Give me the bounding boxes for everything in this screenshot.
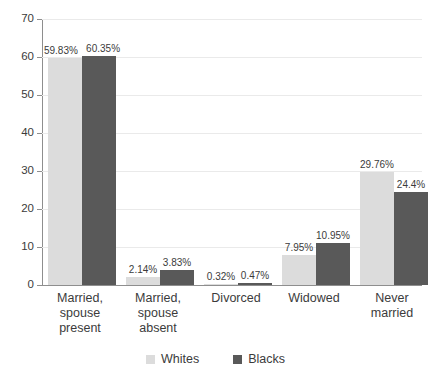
bar-chart: 70 60 50 40 30 20 10 0 59.83 <box>0 0 431 376</box>
bar-value-label: 3.83% <box>163 257 191 268</box>
y-tick-label-60: 60 <box>4 51 34 63</box>
legend-label-whites: Whites <box>161 352 199 366</box>
y-tick-label-10: 10 <box>4 241 34 253</box>
bar-whites-divorced[interactable]: 0.32% <box>204 284 238 285</box>
bar-whites-married-spouse-absent[interactable]: 2.14% <box>126 277 160 285</box>
legend-item-blacks[interactable]: Blacks <box>233 352 285 366</box>
bar-group-never-married: 29.76% 24.4% <box>360 19 430 285</box>
bar-blacks-divorced[interactable]: 0.47% <box>238 283 272 285</box>
y-tick-label-70: 70 <box>4 13 34 25</box>
bar-whites-married-spouse-present[interactable]: 59.83% <box>48 58 82 285</box>
bar-blacks-married-spouse-present[interactable]: 60.35% <box>82 56 116 285</box>
bar-value-label: 7.95% <box>285 242 313 253</box>
bar-blacks-never-married[interactable]: 24.4% <box>394 192 428 285</box>
bar-blacks-widowed[interactable]: 10.95% <box>316 243 350 285</box>
bar-whites-never-married[interactable]: 29.76% <box>360 172 394 285</box>
x-axis-baseline <box>42 285 422 286</box>
bar-value-label: 59.83% <box>44 45 78 56</box>
y-tick-label-20: 20 <box>4 203 34 215</box>
blacks-swatch-icon <box>233 355 242 364</box>
plot-area: 59.83% 60.35% 2.14% 3.83% 0. <box>42 19 422 285</box>
bar-value-label: 60.35% <box>86 43 120 54</box>
bar-value-label: 2.14% <box>129 264 157 275</box>
bar-value-label: 0.32% <box>207 271 235 282</box>
y-tick-label-30: 30 <box>4 165 34 177</box>
bar-whites-widowed[interactable]: 7.95% <box>282 255 316 285</box>
legend-label-blacks: Blacks <box>248 352 285 366</box>
y-tick-label-40: 40 <box>4 127 34 139</box>
bar-group-divorced: 0.32% 0.47% <box>204 19 274 285</box>
bar-blacks-married-spouse-absent[interactable]: 3.83% <box>160 270 194 285</box>
bar-value-label: 10.95% <box>316 230 350 241</box>
bar-value-label: 0.47% <box>241 270 269 281</box>
bar-group-widowed: 7.95% 10.95% <box>282 19 352 285</box>
bar-group-married-spouse-absent: 2.14% 3.83% <box>126 19 196 285</box>
whites-swatch-icon <box>146 355 155 364</box>
chart-legend: Whites Blacks <box>0 352 431 366</box>
bar-group-married-spouse-present: 59.83% 60.35% <box>48 19 118 285</box>
y-tick-label-0: 0 <box>4 279 34 291</box>
y-tick-label-50: 50 <box>4 89 34 101</box>
bar-value-label: 24.4% <box>397 179 425 190</box>
x-axis-label-never-married: Never married <box>340 291 431 321</box>
legend-item-whites[interactable]: Whites <box>146 352 199 366</box>
bar-value-label: 29.76% <box>360 159 394 170</box>
